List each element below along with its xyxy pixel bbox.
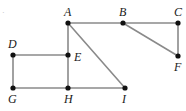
vertex-label-B: B xyxy=(119,6,126,18)
graph-vertex-H xyxy=(65,85,70,90)
graph-vertex-F xyxy=(175,53,180,58)
vertex-label-F: F xyxy=(174,61,181,73)
vertex-label-G: G xyxy=(8,93,17,105)
graph-vertex-E xyxy=(65,52,70,57)
graph-vertex-D xyxy=(10,52,15,57)
graph-vertex-A xyxy=(65,20,70,25)
graph-canvas xyxy=(0,0,186,111)
graph-vertex-B xyxy=(120,20,125,25)
graph-vertex-G xyxy=(10,85,15,90)
vertex-label-H: H xyxy=(64,93,73,105)
graph-vertex-I xyxy=(122,85,127,90)
vertex-label-C: C xyxy=(174,6,182,18)
graph-edge-BF xyxy=(123,23,178,56)
graph-diagram-figure: · ABCDEFGHI xyxy=(0,0,186,111)
edge-layer xyxy=(13,23,178,88)
vertex-label-A: A xyxy=(64,6,71,18)
vertex-label-I: I xyxy=(122,93,126,105)
graph-vertex-C xyxy=(175,20,180,25)
vertex-label-D: D xyxy=(8,38,17,50)
vertex-label-E: E xyxy=(74,51,81,63)
